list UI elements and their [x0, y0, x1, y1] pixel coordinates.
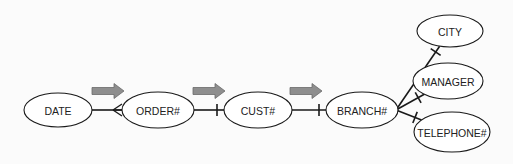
node-label: BRANCH#: [337, 105, 387, 117]
node-label: DATE: [44, 105, 71, 117]
edge-order-cust: [194, 104, 224, 116]
diagram-canvas: DATEORDER#CUST#BRANCH#CITYMANAGERTELEPHO…: [0, 0, 513, 164]
edge-branch-telephone: [396, 110, 422, 123]
node-label: ORDER#: [136, 105, 180, 117]
edge-branch-manager: [396, 92, 424, 110]
one-marker-icon: [415, 92, 421, 102]
nodes: DATEORDER#CUST#BRANCH#CITYMANAGERTELEPHO…: [24, 15, 490, 152]
node-cust[interactable]: CUST#: [224, 92, 292, 128]
direction-arrows: [92, 84, 322, 99]
edge-date-order: [92, 104, 122, 116]
one-marker-icon: [431, 49, 441, 56]
node-manager[interactable]: MANAGER: [413, 63, 483, 99]
node-label: MANAGER: [421, 76, 475, 88]
node-telephone[interactable]: TELEPHONE#: [414, 112, 490, 152]
direction-arrow-icon: [290, 84, 322, 99]
node-date[interactable]: DATE: [24, 93, 92, 127]
node-branch[interactable]: BRANCH#: [326, 92, 398, 128]
node-label: TELEPHONE#: [417, 127, 487, 139]
dependency-diagram: DATEORDER#CUST#BRANCH#CITYMANAGERTELEPHO…: [0, 0, 513, 164]
node-label: CITY: [438, 26, 462, 38]
node-city[interactable]: CITY: [417, 15, 483, 47]
crowfoot-marker-icon: [113, 104, 122, 116]
edge-cust-branch: [292, 104, 326, 116]
node-order[interactable]: ORDER#: [122, 92, 194, 128]
direction-arrow-icon: [193, 84, 225, 99]
direction-arrow-icon: [92, 84, 124, 99]
node-label: CUST#: [241, 105, 276, 117]
